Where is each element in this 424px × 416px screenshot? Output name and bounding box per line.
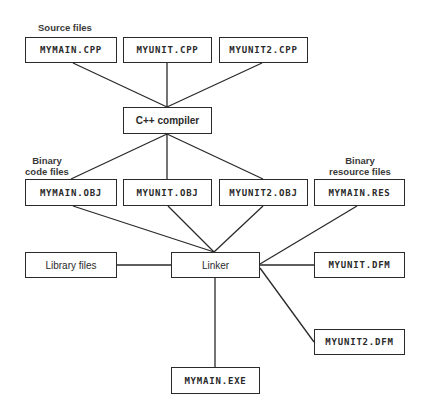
node-linker: Linker [171, 252, 260, 278]
binary-code-label-line2: code files [22, 166, 72, 177]
node-mymain-res: MYMAIN.RES [314, 179, 405, 206]
node-library-files: Library files [25, 252, 117, 278]
node-mymain-cpp: MYMAIN.CPP [25, 37, 117, 63]
node-mymain-obj: MYMAIN.OBJ [25, 179, 117, 206]
node-myunit-obj: MYUNIT.OBJ [123, 179, 212, 206]
node-myunit2-cpp: MYUNIT2.CPP [219, 37, 308, 63]
node-myunit-dfm: MYUNIT.DFM [314, 252, 405, 278]
binary-resource-label-line2: resource files [318, 166, 402, 177]
node-myunit-cpp: MYUNIT.CPP [123, 37, 212, 63]
node-myunit2-dfm: MYUNIT2.DFM [314, 329, 405, 355]
binary-code-files-label: Binary code files [22, 155, 72, 177]
node-cpp-compiler: C++ compiler [123, 107, 212, 134]
binary-code-label-line1: Binary [22, 155, 72, 166]
node-myunit2-obj: MYUNIT2.OBJ [219, 179, 308, 206]
source-files-label: Source files [38, 22, 92, 33]
build-process-diagram: Source files Binary code files Binary re… [0, 0, 424, 416]
node-mymain-exe: MYMAIN.EXE [171, 367, 260, 394]
binary-resource-label-line1: Binary [318, 155, 402, 166]
binary-resource-files-label: Binary resource files [318, 155, 402, 177]
